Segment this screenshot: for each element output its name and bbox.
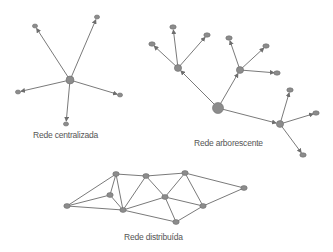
edge xyxy=(280,114,313,124)
edge xyxy=(165,197,176,222)
leaf-node xyxy=(274,71,280,75)
leaf-node xyxy=(149,42,155,46)
leaf-node xyxy=(287,88,293,92)
mesh-node xyxy=(120,208,126,213)
edge xyxy=(181,71,218,108)
edge xyxy=(37,29,70,80)
leaf-node xyxy=(117,93,122,97)
mesh-node xyxy=(162,195,168,200)
branch-node xyxy=(276,121,283,128)
edge xyxy=(123,210,176,222)
edge xyxy=(66,80,70,121)
leaf-node xyxy=(204,33,210,37)
mesh-node xyxy=(173,220,179,225)
edge xyxy=(280,124,301,153)
edge xyxy=(116,174,146,176)
label-tree: Rede arborescente xyxy=(194,138,263,148)
edge xyxy=(176,206,203,222)
edge xyxy=(154,46,178,68)
edge xyxy=(218,73,238,108)
leaf-node xyxy=(63,122,68,126)
distributed-network xyxy=(64,171,247,225)
leaf-node xyxy=(313,111,319,115)
leaf-node xyxy=(32,24,37,28)
edge xyxy=(116,174,123,210)
edge xyxy=(185,173,203,206)
branch-node xyxy=(236,67,243,74)
label-distributed: Rede distribuída xyxy=(124,232,183,242)
edge xyxy=(240,48,264,70)
leaf-node xyxy=(170,25,176,29)
edge xyxy=(178,37,205,68)
leaf-node xyxy=(94,15,99,19)
edge xyxy=(165,197,203,206)
root-node xyxy=(213,103,224,114)
edge xyxy=(173,30,178,68)
label-centralized: Rede centralizada xyxy=(33,130,98,140)
mesh-node xyxy=(182,171,188,176)
edge xyxy=(146,176,165,197)
mesh-node xyxy=(113,172,119,177)
edge xyxy=(67,195,110,206)
edge xyxy=(165,173,185,197)
edge xyxy=(280,93,289,124)
mesh-node xyxy=(107,193,113,198)
network-diagram xyxy=(0,0,333,252)
edge xyxy=(218,108,276,123)
edge xyxy=(70,20,96,80)
edge xyxy=(203,188,244,206)
mesh-node xyxy=(64,204,70,209)
leaf-node xyxy=(300,153,306,157)
edge xyxy=(21,80,70,91)
leaf-node xyxy=(263,44,269,48)
branch-node xyxy=(174,65,181,72)
edge xyxy=(67,174,116,206)
centralized-network xyxy=(15,15,122,126)
edge xyxy=(185,173,244,188)
mesh-node xyxy=(241,186,247,191)
edge xyxy=(230,41,240,70)
edge xyxy=(146,173,185,176)
leaf-node xyxy=(15,90,20,94)
mesh-node xyxy=(200,204,206,209)
hub-node xyxy=(66,76,74,84)
edge xyxy=(70,80,117,94)
edge xyxy=(240,70,274,73)
edge xyxy=(123,176,146,210)
edge xyxy=(123,197,165,210)
mesh-node xyxy=(143,174,149,179)
edge xyxy=(67,206,123,210)
leaf-node xyxy=(226,36,232,40)
